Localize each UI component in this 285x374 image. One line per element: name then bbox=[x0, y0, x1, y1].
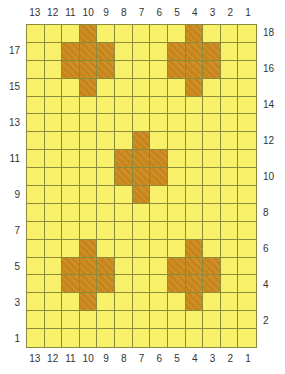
chart-cell[interactable] bbox=[168, 97, 186, 115]
chart-cell[interactable] bbox=[80, 222, 98, 240]
chart-cell[interactable] bbox=[238, 204, 256, 222]
chart-cell[interactable] bbox=[133, 150, 151, 168]
chart-cell[interactable] bbox=[45, 186, 63, 204]
chart-cell[interactable] bbox=[133, 258, 151, 276]
chart-cell[interactable] bbox=[186, 150, 204, 168]
chart-cell[interactable] bbox=[238, 329, 256, 347]
chart-cell[interactable] bbox=[186, 329, 204, 347]
chart-cell[interactable] bbox=[168, 43, 186, 61]
chart-cell[interactable] bbox=[168, 79, 186, 97]
chart-cell[interactable] bbox=[45, 114, 63, 132]
chart-cell[interactable] bbox=[80, 275, 98, 293]
chart-cell[interactable] bbox=[80, 258, 98, 276]
chart-cell[interactable] bbox=[45, 79, 63, 97]
chart-cell[interactable] bbox=[45, 222, 63, 240]
chart-cell[interactable] bbox=[186, 114, 204, 132]
chart-cell[interactable] bbox=[115, 258, 133, 276]
chart-cell[interactable] bbox=[133, 240, 151, 258]
chart-cell[interactable] bbox=[45, 204, 63, 222]
chart-cell[interactable] bbox=[45, 43, 63, 61]
chart-cell[interactable] bbox=[133, 222, 151, 240]
chart-cell[interactable] bbox=[186, 222, 204, 240]
chart-cell[interactable] bbox=[45, 150, 63, 168]
chart-cell[interactable] bbox=[80, 168, 98, 186]
chart-cell[interactable] bbox=[97, 79, 115, 97]
chart-cell[interactable] bbox=[221, 222, 239, 240]
chart-cell[interactable] bbox=[45, 168, 63, 186]
chart-cell[interactable] bbox=[203, 150, 221, 168]
chart-cell[interactable] bbox=[45, 132, 63, 150]
chart-cell[interactable] bbox=[45, 293, 63, 311]
chart-cell[interactable] bbox=[133, 204, 151, 222]
chart-cell[interactable] bbox=[27, 114, 45, 132]
chart-cell[interactable] bbox=[62, 186, 80, 204]
chart-cell[interactable] bbox=[150, 79, 168, 97]
chart-cell[interactable] bbox=[80, 114, 98, 132]
chart-cell[interactable] bbox=[168, 114, 186, 132]
chart-cell[interactable] bbox=[150, 61, 168, 79]
chart-cell[interactable] bbox=[238, 222, 256, 240]
chart-cell[interactable] bbox=[80, 79, 98, 97]
chart-cell[interactable] bbox=[238, 25, 256, 43]
chart-cell[interactable] bbox=[97, 97, 115, 115]
chart-cell[interactable] bbox=[168, 61, 186, 79]
chart-cell[interactable] bbox=[115, 79, 133, 97]
chart-cell[interactable] bbox=[115, 293, 133, 311]
chart-cell[interactable] bbox=[168, 329, 186, 347]
chart-cell[interactable] bbox=[133, 79, 151, 97]
chart-cell[interactable] bbox=[133, 25, 151, 43]
chart-cell[interactable] bbox=[27, 311, 45, 329]
chart-cell[interactable] bbox=[45, 275, 63, 293]
chart-cell[interactable] bbox=[221, 258, 239, 276]
chart-cell[interactable] bbox=[115, 150, 133, 168]
chart-cell[interactable] bbox=[203, 311, 221, 329]
chart-cell[interactable] bbox=[115, 311, 133, 329]
chart-cell[interactable] bbox=[133, 61, 151, 79]
chart-cell[interactable] bbox=[203, 275, 221, 293]
chart-cell[interactable] bbox=[186, 186, 204, 204]
chart-cell[interactable] bbox=[27, 293, 45, 311]
chart-cell[interactable] bbox=[221, 132, 239, 150]
chart-cell[interactable] bbox=[150, 311, 168, 329]
chart-cell[interactable] bbox=[221, 204, 239, 222]
chart-cell[interactable] bbox=[97, 114, 115, 132]
chart-cell[interactable] bbox=[45, 329, 63, 347]
chart-cell[interactable] bbox=[62, 222, 80, 240]
chart-cell[interactable] bbox=[168, 311, 186, 329]
chart-cell[interactable] bbox=[203, 258, 221, 276]
chart-cell[interactable] bbox=[97, 240, 115, 258]
chart-cell[interactable] bbox=[27, 132, 45, 150]
chart-cell[interactable] bbox=[45, 61, 63, 79]
chart-cell[interactable] bbox=[203, 186, 221, 204]
chart-cell[interactable] bbox=[115, 43, 133, 61]
chart-cell[interactable] bbox=[62, 311, 80, 329]
chart-cell[interactable] bbox=[80, 150, 98, 168]
chart-cell[interactable] bbox=[62, 293, 80, 311]
chart-cell[interactable] bbox=[238, 258, 256, 276]
chart-cell[interactable] bbox=[238, 293, 256, 311]
chart-cell[interactable] bbox=[62, 150, 80, 168]
chart-cell[interactable] bbox=[150, 204, 168, 222]
chart-cell[interactable] bbox=[45, 97, 63, 115]
chart-cell[interactable] bbox=[80, 204, 98, 222]
chart-cell[interactable] bbox=[97, 204, 115, 222]
chart-cell[interactable] bbox=[133, 329, 151, 347]
chart-cell[interactable] bbox=[97, 275, 115, 293]
chart-cell[interactable] bbox=[97, 293, 115, 311]
chart-cell[interactable] bbox=[238, 97, 256, 115]
chart-cell[interactable] bbox=[168, 258, 186, 276]
chart-cell[interactable] bbox=[186, 275, 204, 293]
chart-cell[interactable] bbox=[62, 43, 80, 61]
chart-cell[interactable] bbox=[115, 204, 133, 222]
chart-cell[interactable] bbox=[150, 275, 168, 293]
chart-cell[interactable] bbox=[45, 258, 63, 276]
chart-cell[interactable] bbox=[221, 97, 239, 115]
chart-cell[interactable] bbox=[133, 293, 151, 311]
chart-cell[interactable] bbox=[203, 25, 221, 43]
chart-cell[interactable] bbox=[150, 114, 168, 132]
chart-cell[interactable] bbox=[80, 43, 98, 61]
chart-cell[interactable] bbox=[221, 43, 239, 61]
chart-cell[interactable] bbox=[27, 61, 45, 79]
chart-cell[interactable] bbox=[97, 168, 115, 186]
chart-cell[interactable] bbox=[97, 186, 115, 204]
